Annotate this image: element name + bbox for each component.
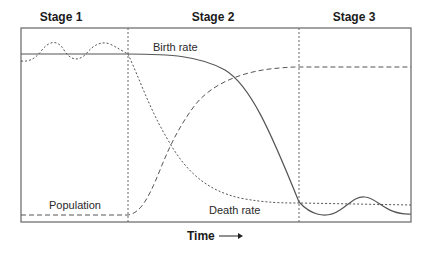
stage-2-title: Stage 2 — [192, 10, 235, 24]
birth-rate-label: Birth rate — [153, 41, 198, 53]
death-rate-curve — [21, 43, 411, 206]
death-rate-label: Death rate — [209, 204, 260, 216]
time-arrow-icon — [219, 233, 243, 239]
stage-3-title: Stage 3 — [333, 10, 376, 24]
population-label: Population — [49, 199, 101, 211]
stage-1-title: Stage 1 — [40, 10, 83, 24]
plot-frame — [21, 28, 411, 222]
population-curve — [21, 67, 411, 215]
birth-rate-curve — [21, 54, 411, 215]
demographic-transition-diagram: Stage 1 Stage 2 Stage 3 Birth rate Popul… — [0, 0, 429, 254]
time-axis-label: Time — [187, 229, 215, 243]
